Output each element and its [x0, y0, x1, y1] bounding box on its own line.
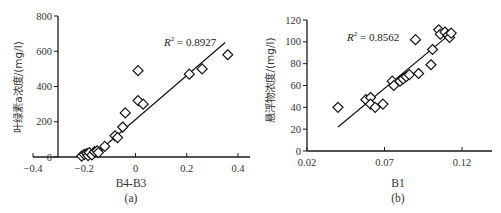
data-point-diamond	[426, 60, 436, 70]
data-points-a	[77, 50, 233, 161]
y-tick-label: 80	[291, 58, 302, 69]
data-point-diamond	[120, 108, 130, 118]
data-point-diamond	[333, 102, 343, 112]
data-point-diamond	[223, 50, 233, 60]
data-point-diamond	[133, 66, 143, 76]
y-tick-label: 40	[291, 102, 302, 113]
panel-label-b: (b)	[391, 192, 405, 205]
x-tick-label: −0.2	[75, 163, 94, 174]
x-ticks-a: −0.4−0.200.20.4	[23, 153, 245, 174]
r-squared-b: R2 = 0.8562	[346, 30, 399, 43]
x-axis-label-b: B1	[391, 177, 405, 189]
x-axis-label-a: B4-B3	[116, 177, 147, 189]
y-tick-label: 120	[285, 15, 301, 26]
x-tick-label: 0.2	[180, 163, 193, 174]
chart-panel-b: 020406080100120 0.020.070.12 R2 = 0.8562…	[264, 15, 492, 206]
r-squared-a: R2 = 0.8927	[163, 35, 217, 48]
x-tick-label: 0.02	[298, 157, 316, 168]
y-axis-label-a: 叶绿素a浓度/(mg/l)	[12, 41, 24, 133]
trendline-a	[92, 42, 225, 157]
x-tick-label: 0.12	[453, 157, 471, 168]
y-tick-label: 0	[47, 152, 52, 163]
data-point-diamond	[118, 122, 128, 132]
x-tick-label: 0.07	[375, 157, 393, 168]
x-ticks-b: 0.020.070.12	[298, 147, 471, 168]
x-tick-label: 0.4	[231, 163, 245, 174]
y-axis-label-b: 悬浮物浓度/(mg/l)	[264, 37, 276, 122]
y-tick-label: 400	[36, 81, 52, 92]
y-tick-label: 200	[36, 116, 52, 127]
y-tick-label: 60	[291, 80, 302, 91]
panel-label-a: (a)	[125, 192, 138, 205]
chart-canvas: 0200400600800 −0.4−0.200.20.4 R2 = 0.892…	[0, 0, 501, 213]
y-tick-label: 0	[296, 146, 301, 157]
y-tick-label: 800	[36, 11, 52, 22]
x-tick-label: 0	[133, 163, 138, 174]
y-ticks-a: 0200400600800	[36, 11, 58, 163]
x-tick-label: −0.4	[23, 163, 43, 174]
chart-panel-a: 0200400600800 −0.4−0.200.20.4 R2 = 0.892…	[12, 11, 250, 206]
data-point-diamond	[411, 35, 421, 45]
y-tick-label: 600	[36, 46, 52, 57]
y-tick-label: 20	[291, 124, 302, 135]
data-point-diamond	[414, 68, 424, 78]
y-tick-label: 100	[285, 36, 301, 47]
y-ticks-b: 020406080100120	[285, 15, 307, 157]
